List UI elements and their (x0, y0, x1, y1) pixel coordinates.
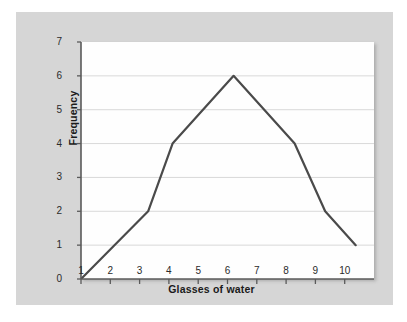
y-tick-label-5: 5 (42, 105, 62, 115)
y-tick-label-3: 3 (42, 172, 62, 182)
x-tick-label-2: 2 (99, 266, 121, 276)
x-tick-label-4: 4 (158, 266, 180, 276)
y-tick-label-4: 4 (42, 139, 62, 149)
x-tick-label-7: 7 (246, 266, 268, 276)
y-tick-label-0: 0 (42, 274, 62, 284)
y-tick-label-7: 7 (42, 37, 62, 47)
y-tick-label-1: 1 (42, 240, 62, 250)
axes-svg (74, 36, 384, 288)
y-tick-label-2: 2 (42, 206, 62, 216)
x-tick-label-10: 10 (334, 266, 356, 276)
x-tick-label-9: 9 (304, 266, 326, 276)
x-tick-label-8: 8 (275, 266, 297, 276)
x-tick-label-5: 5 (187, 266, 209, 276)
y-tick-label-6: 6 (42, 71, 62, 81)
chart-panel: Frequency (16, 12, 393, 305)
x-tick-label-3: 3 (129, 266, 151, 276)
x-tick-label-1: 1 (70, 266, 92, 276)
x-axis-title: Glasses of water (65, 283, 358, 295)
x-tick-label-6: 6 (217, 266, 239, 276)
figure-container: Frequency (0, 0, 407, 322)
